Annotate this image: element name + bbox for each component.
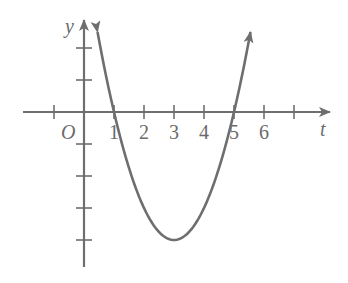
y-axis-label: y <box>63 15 74 38</box>
parabola-graph: 123456 y t O <box>0 0 348 283</box>
t-tick-label: 2 <box>139 121 149 143</box>
t-axis-tick-labels: 123456 <box>109 121 269 143</box>
t-tick-label: 3 <box>169 121 179 143</box>
t-axis-label: t <box>320 118 326 140</box>
t-tick-label: 6 <box>259 121 269 143</box>
origin-label: O <box>61 121 75 143</box>
t-tick-label: 4 <box>199 121 209 143</box>
